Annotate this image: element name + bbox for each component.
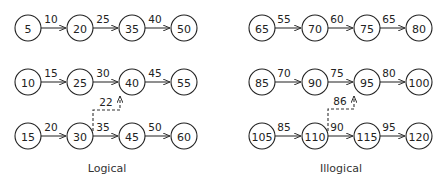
edge-label: 50: [148, 121, 161, 133]
node-label: 25: [73, 77, 87, 90]
network-diagram: 10 25 40 5 20 35 50 15 30 45 10 25 4: [0, 0, 446, 182]
node-label: 85: [255, 77, 269, 90]
node-label: 55: [177, 77, 191, 90]
row-3: 85 90 95 105 110 115 120: [249, 121, 432, 149]
edge-label: 75: [330, 67, 343, 79]
node-label: 115: [357, 131, 378, 144]
node-label: 120: [409, 131, 430, 144]
node-label: 30: [73, 131, 87, 144]
node-label: 45: [125, 131, 139, 144]
node-label: 10: [21, 77, 35, 90]
node-label: 60: [177, 131, 191, 144]
cross-edge-label: 22: [99, 96, 112, 108]
row-2: 70 75 80 85 90 95 100: [249, 67, 432, 95]
node-label: 50: [177, 23, 191, 36]
row-1: 55 60 65 65 70 75 80: [249, 13, 432, 41]
row-2: 15 30 45 10 25 40 55: [15, 67, 197, 95]
edge-label: 35: [96, 121, 109, 133]
node-label: 40: [125, 77, 139, 90]
edge-label: 65: [382, 13, 395, 25]
edge-label: 70: [277, 67, 290, 79]
node-label: 20: [73, 23, 87, 36]
caption-logical: Logical: [88, 162, 127, 175]
panel-illogical: 55 60 65 65 70 75 80 70 75 80 85 90: [249, 13, 432, 175]
edge-label: 55: [277, 13, 290, 25]
edge-label: 25: [96, 13, 109, 25]
edge-label: 85: [277, 121, 290, 133]
node-label: 95: [360, 77, 374, 90]
edge-label: 60: [330, 13, 343, 25]
node-label: 75: [360, 23, 374, 36]
edge-label: 15: [44, 67, 57, 79]
node-label: 100: [409, 77, 430, 90]
edge-label: 45: [148, 67, 161, 79]
edge-label: 40: [148, 13, 161, 25]
row-3: 20 35 50 15 30 45 60: [15, 121, 197, 149]
node-label: 80: [412, 23, 426, 36]
cross-edge-label: 86: [333, 95, 347, 107]
edge-label: 90: [330, 121, 343, 133]
node-label: 5: [25, 23, 32, 36]
node-label: 110: [305, 131, 326, 144]
node-label: 35: [125, 23, 139, 36]
caption-illogical: Illogical: [320, 162, 362, 175]
node-label: 65: [255, 23, 269, 36]
row-1: 10 25 40 5 20 35 50: [15, 13, 197, 41]
edge-label: 10: [44, 13, 57, 25]
edge-label: 80: [382, 67, 395, 79]
node-label: 90: [308, 77, 322, 90]
node-label: 70: [308, 23, 322, 36]
edge-label: 20: [44, 121, 57, 133]
edge-label: 30: [96, 67, 109, 79]
node-label: 15: [21, 131, 35, 144]
panel-logical: 10 25 40 5 20 35 50 15 30 45 10 25 4: [15, 13, 197, 175]
node-label: 105: [252, 131, 273, 144]
edge-label: 95: [382, 121, 395, 133]
